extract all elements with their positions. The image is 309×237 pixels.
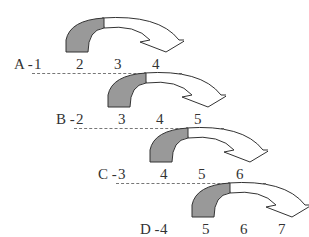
curved-arrow-icon — [190, 177, 309, 222]
row-label: C - — [98, 166, 117, 183]
sequence-number: 2 — [76, 111, 84, 128]
sequence-number: 5 — [202, 221, 210, 237]
sequence-number: 4 — [160, 166, 168, 183]
sequence-number: 3 — [118, 166, 126, 183]
curved-arrow-icon — [106, 67, 226, 112]
row-label: B - — [56, 111, 75, 128]
sequence-number: 7 — [278, 221, 286, 237]
sequence-number: 6 — [240, 221, 248, 237]
curved-arrow-icon — [148, 122, 268, 167]
row-label: D - — [140, 221, 160, 237]
sequence-number: 1 — [34, 56, 42, 73]
curved-arrow-icon — [64, 12, 184, 57]
sequence-number: 3 — [118, 111, 126, 128]
row-label: A - — [14, 56, 33, 73]
sequence-number: 4 — [160, 221, 168, 237]
sequence-number: 2 — [76, 56, 84, 73]
